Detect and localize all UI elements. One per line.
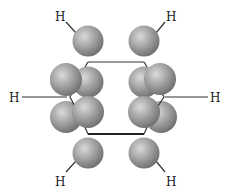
hydrogen-label-top-right: H: [166, 10, 176, 24]
p-orbital-lobe-left-lower-front: [72, 96, 104, 128]
hydrogen-label-top-left: H: [55, 10, 65, 24]
ch-bond-top-right: [156, 22, 165, 33]
p-orbital-lobe-right-lower-front: [128, 96, 160, 128]
ch-bond-top-left: [66, 22, 76, 33]
p-orbital-lobe-top-left: [73, 26, 104, 57]
ch-bonds: [22, 22, 208, 172]
p-orbital-lobe-bottom-right: [129, 138, 160, 169]
p-orbital-lobe-bottom-left: [73, 138, 104, 169]
p-orbital-lobe-top-right: [129, 26, 160, 57]
ch-bond-bottom-left: [66, 161, 76, 172]
benzene-p-orbital-diagram: H H H H H H: [0, 0, 227, 193]
ch-bond-bottom-right: [156, 161, 165, 172]
hydrogen-label-bottom-left: H: [55, 175, 65, 189]
p-orbital-lobe-right-upper-outer: [144, 63, 176, 95]
hydrogen-label-left: H: [9, 91, 19, 105]
p-orbital-lobe-left-upper-outer: [50, 64, 82, 96]
hydrogen-label-right: H: [210, 91, 220, 105]
hydrogen-label-bottom-right: H: [166, 175, 176, 189]
